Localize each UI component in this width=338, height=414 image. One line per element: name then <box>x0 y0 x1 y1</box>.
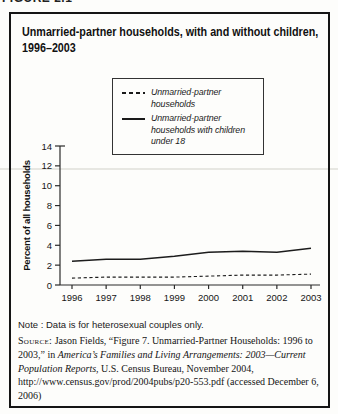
legend-label: Unmarried-partner households <box>151 87 255 110</box>
svg-text:2003: 2003 <box>300 292 321 303</box>
svg-text:1999: 1999 <box>164 292 185 303</box>
svg-text:6: 6 <box>47 220 52 231</box>
series-line-dashed <box>72 274 311 278</box>
x-axis: 19961997199819992000200120022003 <box>60 285 322 303</box>
legend-item-unmarried: Unmarried-partner households <box>122 87 255 110</box>
svg-text:1998: 1998 <box>130 292 151 303</box>
note-text: Note : Data is for heterosexual couples … <box>18 319 318 330</box>
svg-text:2: 2 <box>47 260 52 271</box>
chart-svg: 02468101214Percent of all households1996… <box>11 135 327 307</box>
svg-text:1996: 1996 <box>61 292 82 303</box>
figure-panel: Unmarried-partner households, with and w… <box>9 12 330 408</box>
solid-line-sample-icon <box>122 118 145 120</box>
dashed-line-sample-icon <box>122 92 145 94</box>
svg-text:2002: 2002 <box>266 292 287 303</box>
figure-title-line1: Unmarried-partner households, with and w… <box>22 24 318 40</box>
svg-text:8: 8 <box>47 200 52 211</box>
svg-text:Percent of all households: Percent of all households <box>21 160 32 271</box>
svg-text:2001: 2001 <box>232 292 253 303</box>
svg-text:1997: 1997 <box>96 292 117 303</box>
svg-text:14: 14 <box>41 141 52 152</box>
figure-label: FIGURE 2.1 <box>2 0 72 5</box>
source-text: Source: Jason Fields, “Figure 7. Unmarri… <box>18 334 324 403</box>
figure-title: Unmarried-partner households, with and w… <box>22 24 318 56</box>
figure-title-line2: 1996–2003 <box>22 40 318 56</box>
svg-text:4: 4 <box>47 240 52 251</box>
y-axis: 02468101214Percent of all households <box>21 141 65 291</box>
svg-text:10: 10 <box>41 180 52 191</box>
source-label: Source: <box>18 335 52 346</box>
page: FIGURE 2.1 Unmarried-partner households,… <box>0 0 338 414</box>
svg-text:0: 0 <box>47 280 52 291</box>
svg-text:12: 12 <box>41 160 52 171</box>
series-line-solid <box>72 248 311 261</box>
svg-text:2000: 2000 <box>198 292 219 303</box>
